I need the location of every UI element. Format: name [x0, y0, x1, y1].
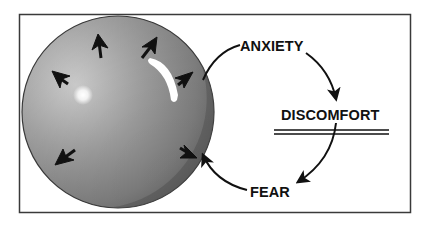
label-fear: FEAR — [250, 184, 290, 200]
balloon-highlight-spot — [73, 85, 93, 105]
anxiety-cycle-diagram: ANXIETY DISCOMFORT FEAR — [0, 0, 421, 229]
label-discomfort: DISCOMFORT — [281, 107, 380, 123]
label-anxiety: ANXIETY — [240, 38, 304, 54]
